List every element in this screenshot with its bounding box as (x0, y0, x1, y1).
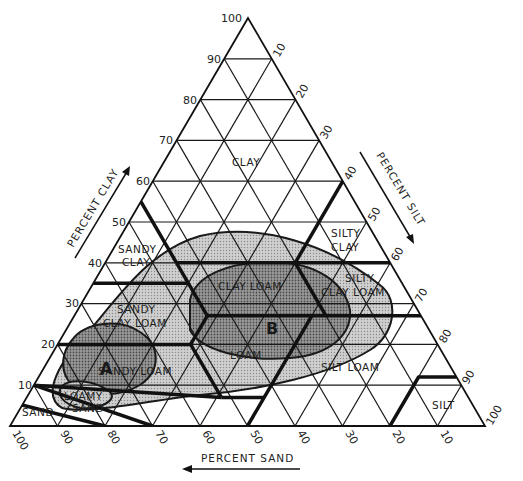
label-clay-loam: CLAY LOAM (218, 280, 282, 292)
svg-text:100: 100 (483, 403, 505, 428)
svg-text:60: 60 (388, 245, 406, 264)
svg-text:100: 100 (9, 428, 31, 453)
label-sandy-clay-1: SANDY (118, 243, 156, 255)
arrow-left-icon (182, 465, 192, 473)
label-clay: CLAY (232, 156, 260, 168)
svg-text:PERCENT SAND: PERCENT SAND (201, 452, 294, 464)
svg-text:70: 70 (159, 134, 173, 147)
sand-axis-ticks: 100 90 80 70 60 50 40 30 20 10 (9, 428, 455, 453)
svg-text:10: 10 (18, 379, 32, 392)
svg-text:100: 100 (221, 12, 242, 25)
svg-text:90: 90 (459, 368, 477, 387)
svg-text:60: 60 (136, 175, 150, 188)
sand-axis-title: PERCENT SAND (182, 452, 300, 473)
svg-text:20: 20 (293, 82, 311, 101)
label-silty-clay-loam-2: CLAY LOAM (321, 286, 385, 298)
svg-text:30: 30 (65, 297, 79, 310)
svg-text:50: 50 (112, 216, 126, 229)
label-silty-clay-2: CLAY (331, 241, 359, 253)
svg-text:40: 40 (341, 164, 359, 183)
label-loamy-sand-1: LOAMY (64, 390, 103, 402)
svg-text:40: 40 (294, 428, 312, 447)
svg-text:90: 90 (57, 428, 75, 447)
svg-text:30: 30 (342, 428, 360, 447)
svg-text:50: 50 (247, 428, 265, 447)
label-silt: SILT (432, 399, 455, 411)
label-silt-loam: SILT LOAM (321, 361, 379, 373)
svg-text:10: 10 (270, 41, 288, 60)
label-silty-clay-1: SILTY (331, 227, 361, 239)
region-b-label: B (266, 319, 278, 338)
label-sandy-clay-2: CLAY (122, 256, 150, 268)
arrow-down-icon (406, 234, 414, 244)
label-loamy-sand-2: SAND (72, 402, 104, 414)
svg-text:60: 60 (199, 428, 217, 447)
svg-text:50: 50 (365, 205, 383, 224)
soil-texture-triangle: 10 20 30 40 50 60 70 80 90 100 10 20 30 … (0, 0, 523, 481)
label-silty-clay-loam-1: SILTY (345, 272, 375, 284)
label-loam: LOAM (230, 349, 262, 361)
svg-text:90: 90 (207, 53, 221, 66)
svg-text:20: 20 (41, 338, 55, 351)
svg-text:20: 20 (389, 428, 407, 447)
region-a-label: A (100, 359, 113, 378)
label-sandy-clay-loam-2: CLAY LOAM (103, 317, 167, 329)
svg-text:PERCENT CLAY: PERCENT CLAY (64, 166, 120, 249)
svg-text:40: 40 (88, 257, 102, 270)
svg-text:80: 80 (436, 327, 454, 346)
label-sandy-clay-loam-1: SANDY (117, 303, 155, 315)
svg-text:70: 70 (152, 428, 170, 447)
label-sand: SAND (22, 406, 54, 418)
svg-text:30: 30 (317, 123, 335, 142)
svg-text:80: 80 (183, 94, 197, 107)
svg-text:10: 10 (437, 428, 455, 447)
svg-text:80: 80 (104, 428, 122, 447)
svg-text:70: 70 (412, 286, 430, 305)
